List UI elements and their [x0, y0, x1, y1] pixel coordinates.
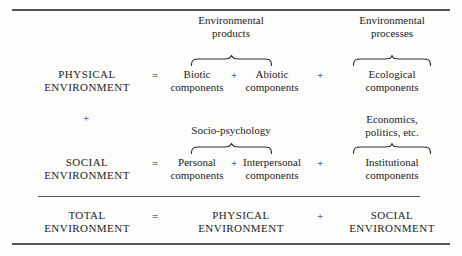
- total-social-line2: ENVIRONMENT: [337, 222, 447, 235]
- bottom-rule: [12, 243, 450, 245]
- row-label-physical-environment: PHYSICAL ENVIRONMENT: [26, 68, 148, 93]
- institutional-line2: components: [337, 169, 447, 182]
- brace-processes-upper: [352, 55, 432, 66]
- abiotic-line2: components: [239, 81, 305, 94]
- interpersonal-line2: components: [237, 169, 307, 182]
- brace-institutional-upper: [352, 143, 432, 154]
- economics-line1: Economics,: [342, 113, 442, 126]
- figure-sheet: Environmental products Environmental pro…: [0, 0, 462, 256]
- middle-rule: [38, 196, 420, 197]
- row-label-social-environment: SOCIAL ENVIRONMENT: [26, 156, 148, 181]
- biotic-line1: Biotic: [166, 68, 228, 81]
- physical-term-abiotic-components: Abiotic components: [239, 68, 305, 93]
- ecological-line2: components: [337, 81, 447, 94]
- total-term-social-environment: SOCIAL ENVIRONMENT: [337, 209, 447, 234]
- abiotic-line1: Abiotic: [239, 68, 305, 81]
- total-physical-line2: ENVIRONMENT: [176, 222, 306, 235]
- top-rule: [12, 9, 450, 11]
- header-processes-line2: processes: [342, 27, 442, 40]
- connector-socio-psychology-label: Socio-psychology: [181, 124, 281, 137]
- physical-term-ecological-components: Ecological components: [337, 68, 447, 93]
- header-products-line1: Environmental: [181, 14, 281, 27]
- total-label-line2: ENVIRONMENT: [26, 222, 148, 235]
- social-plus-2: +: [313, 158, 327, 169]
- social-term-personal-components: Personal components: [166, 156, 228, 181]
- politics-line2: politics, etc.: [342, 126, 442, 139]
- personal-line2: components: [166, 169, 228, 182]
- biotic-line2: components: [166, 81, 228, 94]
- physical-equals-sign: =: [146, 70, 164, 81]
- brace-products-upper: [190, 55, 273, 66]
- connector-economics-politics-label: Economics, politics, etc.: [342, 113, 442, 138]
- social-equals-sign: =: [146, 158, 164, 169]
- social-label-line1: SOCIAL: [26, 156, 148, 169]
- social-term-institutional-components: Institutional components: [337, 156, 447, 181]
- header-products-line2: products: [181, 27, 281, 40]
- header-environmental-processes: Environmental processes: [342, 14, 442, 39]
- total-plus-1: +: [313, 211, 327, 222]
- physical-plus-2: +: [313, 70, 327, 81]
- social-term-interpersonal-components: Interpersonal components: [237, 156, 307, 181]
- interpersonal-line1: Interpersonal: [237, 156, 307, 169]
- row-label-total-environment: TOTAL ENVIRONMENT: [26, 209, 148, 234]
- connector-plus: +: [79, 113, 93, 124]
- physical-label-line1: PHYSICAL: [26, 68, 148, 81]
- institutional-line1: Institutional: [337, 156, 447, 169]
- physical-label-line2: ENVIRONMENT: [26, 81, 148, 94]
- header-processes-line1: Environmental: [342, 14, 442, 27]
- total-equals-sign: =: [146, 211, 164, 222]
- header-environmental-products: Environmental products: [181, 14, 281, 39]
- total-physical-line1: PHYSICAL: [176, 209, 306, 222]
- total-label-line1: TOTAL: [26, 209, 148, 222]
- ecological-line1: Ecological: [337, 68, 447, 81]
- social-label-line2: ENVIRONMENT: [26, 169, 148, 182]
- socio-psychology-text: Socio-psychology: [181, 124, 281, 137]
- personal-line1: Personal: [166, 156, 228, 169]
- total-term-physical-environment: PHYSICAL ENVIRONMENT: [176, 209, 306, 234]
- physical-term-biotic-components: Biotic components: [166, 68, 228, 93]
- total-social-line1: SOCIAL: [337, 209, 447, 222]
- brace-socio-upper: [190, 143, 273, 154]
